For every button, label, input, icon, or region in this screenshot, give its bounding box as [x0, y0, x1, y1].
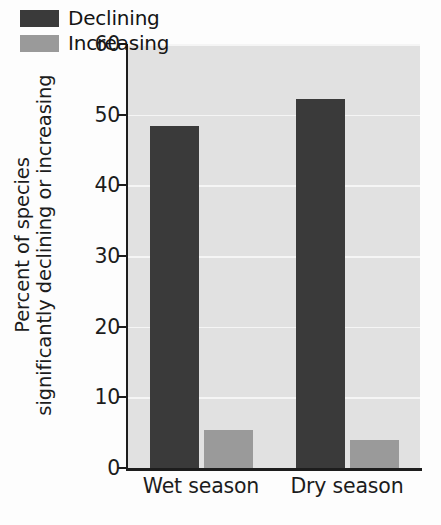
- bar-wet-season-declining: [150, 126, 199, 468]
- legend-swatch-increasing: [20, 35, 59, 52]
- legend-item-declining: Declining: [20, 7, 169, 29]
- bar-dry-season-declining: [296, 99, 345, 468]
- x-axis-tick-labels: Wet seasonDry season: [128, 474, 420, 514]
- bar-wet-season-increasing: [204, 430, 253, 468]
- y-tick-label-50: 50: [95, 103, 121, 127]
- y-tick-label-10: 10: [95, 385, 121, 409]
- y-axis-label-line-1: Percent of species: [12, 157, 34, 333]
- bar-chart-figure: Percent of species significantly declini…: [0, 0, 441, 525]
- y-tick-label-20: 20: [95, 315, 121, 339]
- plot-area: [128, 44, 420, 468]
- gridline-50: [128, 115, 420, 117]
- y-tick-label-40: 40: [95, 173, 121, 197]
- x-axis-line: [126, 468, 422, 471]
- y-axis-label-line-2: significantly declining or increasing: [34, 74, 56, 415]
- x-tick-label-wet-season: Wet season: [143, 474, 259, 498]
- legend-label-declining: Declining: [68, 8, 160, 28]
- y-tick-label-30: 30: [95, 244, 121, 268]
- bar-dry-season-increasing: [350, 440, 399, 468]
- y-axis-label: Percent of species significantly declini…: [0, 0, 60, 500]
- gridline-60: [128, 44, 420, 46]
- legend-label-increasing: Increasing: [68, 33, 169, 53]
- legend-item-increasing: Increasing: [20, 32, 169, 54]
- x-tick-label-dry-season: Dry season: [291, 474, 404, 498]
- legend-swatch-declining: [20, 10, 59, 27]
- y-axis-tick-labels: 0102030405060: [74, 0, 120, 525]
- legend: DecliningIncreasing: [20, 7, 169, 54]
